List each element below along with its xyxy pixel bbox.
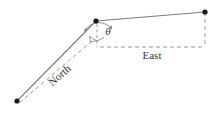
theta-label: θ: [105, 25, 111, 37]
vector-diagram: North East θ: [0, 0, 221, 115]
vertex-to-north-endpoint-segment: [17, 21, 96, 101]
diagram-canvas: North East θ: [0, 0, 221, 115]
point-east-endpoint: [202, 9, 207, 14]
east-label: East: [143, 49, 162, 61]
point-north-endpoint: [14, 98, 19, 103]
point-vertex: [93, 18, 98, 23]
north-label: North: [46, 62, 74, 88]
vertex-to-east-endpoint-segment: [96, 12, 205, 21]
